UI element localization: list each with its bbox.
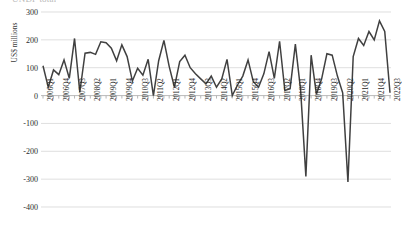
y-tick-label: -100	[23, 119, 38, 128]
y-tick-label: -200	[23, 147, 38, 156]
y-tick-label: -400	[23, 203, 38, 212]
y-tick-label: -300	[23, 175, 38, 184]
plot-area	[41, 0, 393, 230]
y-tick-label: 300	[26, 8, 38, 17]
y-axis-tick-labels: 3002001000-100-200-300-400	[0, 0, 40, 230]
y-tick-label: 0	[34, 91, 38, 100]
y-tick-label: 100	[26, 63, 38, 72]
x-tick-label: 2022Q3	[393, 78, 402, 101]
chart-svg	[41, 0, 393, 230]
y-tick-label: 200	[26, 35, 38, 44]
data-series-line	[43, 21, 390, 182]
